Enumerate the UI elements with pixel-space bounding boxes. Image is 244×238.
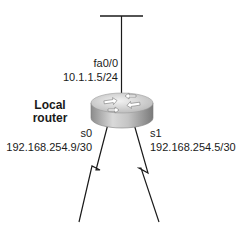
s1-interface-label: s1: [150, 127, 162, 140]
fa0-0-ip-label: 10.1.1.5/24: [63, 71, 118, 84]
router-name-line1: Local: [22, 98, 78, 112]
fa0-0-interface-label: fa0/0: [94, 57, 118, 70]
s0-ip-label: 192.168.254.9/30: [6, 141, 92, 154]
router-name-line2: router: [22, 111, 78, 125]
s1-ip-label: 192.168.254.5/30: [150, 141, 236, 154]
s0-interface-label: s0: [80, 127, 92, 140]
router-icon: [91, 93, 153, 128]
